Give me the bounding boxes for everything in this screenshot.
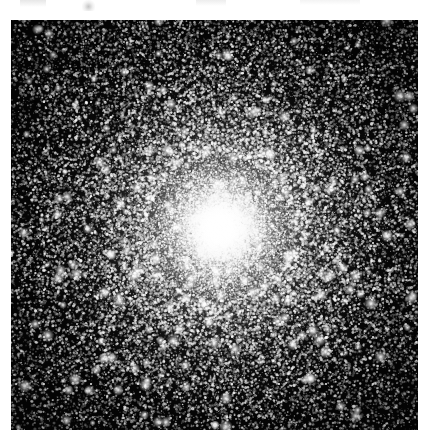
bright-star-upper-right (345, 46, 350, 51)
bright-star-left-mid (30, 198, 34, 202)
scan-smudge-hook (82, 0, 95, 11)
bright-star-mid-upper (189, 120, 192, 123)
film-mottle (11, 20, 418, 430)
plate-vignette (11, 20, 418, 430)
cluster-core-glow (11, 20, 418, 430)
bright-star-outer-se (387, 388, 390, 391)
bright-star-outer-sw (116, 342, 119, 345)
star-field-canvas (11, 20, 418, 430)
bright-star-ne-corner (390, 33, 393, 36)
scan-smudge-right (300, 0, 360, 5)
bright-star-south (237, 386, 240, 389)
bright-star-far-bottom (150, 416, 153, 419)
bright-star-east (360, 183, 363, 186)
cluster-mid-halo (11, 20, 418, 430)
bright-star-lower-left (61, 379, 65, 383)
bright-star-bottom-right (319, 409, 323, 413)
bright-star-outer-nw (49, 77, 52, 80)
bright-star-lower-right (368, 356, 372, 360)
bright-star-sw-corner (36, 406, 39, 409)
scan-smudge-left (20, 0, 46, 7)
globular-cluster-photograph (11, 20, 418, 430)
star-field-fine-grain (11, 20, 418, 430)
star-field-medium-grain (11, 20, 418, 430)
bright-star-far-left (18, 149, 21, 152)
scan-smudge-center (196, 0, 226, 6)
bright-star-top-center (239, 29, 243, 33)
cluster-nucleus (11, 20, 418, 430)
bright-star-lower-center (211, 421, 219, 429)
bright-star-west (70, 249, 73, 252)
cluster-outer-halo (11, 20, 418, 430)
bright-star-rightedge (405, 131, 408, 134)
bright-star-outer-ne (296, 75, 299, 78)
bright-star-right-mid (396, 233, 400, 237)
bright-star-leftedge-low (22, 308, 25, 311)
bright-star-mid-lower (259, 331, 262, 334)
bright-star-north (168, 55, 171, 58)
page-canvas (0, 0, 435, 444)
bright-star-upper-midleft (85, 101, 88, 104)
bright-star-upper-left (129, 39, 133, 43)
star-field-coarse-grain (11, 20, 418, 430)
